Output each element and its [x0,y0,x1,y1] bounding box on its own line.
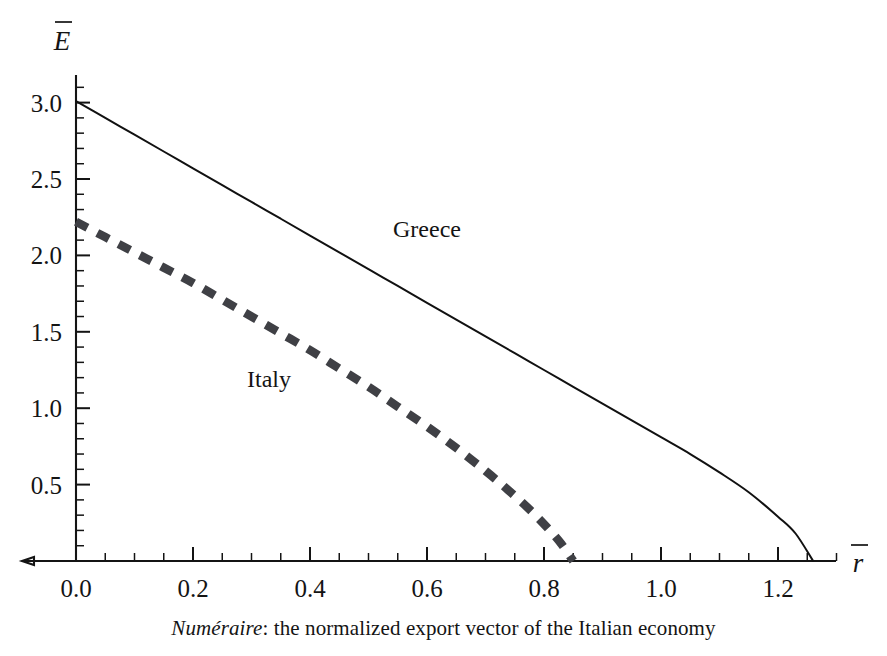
caption-rest-text: : the normalized export vector of the It… [262,616,715,640]
chart-canvas: 0.51.01.52.02.53.0 0.00.20.40.60.81.01.2… [0,0,887,656]
x-tick-label: 0.0 [60,575,91,602]
curve-greece [76,101,813,561]
x-tick-label: 1.2 [762,575,793,602]
x-axis-title-text: r [853,548,864,578]
x-tick-label: 0.2 [177,575,208,602]
data-curves [76,101,813,561]
y-tick-label: 0.5 [31,472,62,499]
y-axis-title: E [53,22,72,56]
x-tick-label: 0.6 [411,575,442,602]
y-axis-tick-labels: 0.51.01.52.02.53.0 [31,90,62,499]
series-label-greece: Greece [393,216,461,242]
x-axis-tick-labels: 0.00.20.40.60.81.01.2 [60,575,793,602]
y-tick-label: 3.0 [31,90,62,117]
x-tick-label: 0.8 [528,575,559,602]
x-tick-label: 0.4 [294,575,326,602]
y-tick-label: 1.0 [31,395,62,422]
caption-numeraire-term: Numéraire [171,616,262,640]
figure-caption: Numéraire: the normalized export vector … [0,616,887,641]
x-axis-ticks [76,547,837,561]
x-tick-label: 1.0 [645,575,676,602]
y-tick-label: 2.0 [31,242,62,269]
y-tick-label: 1.5 [31,319,62,346]
series-label-italy: Italy [247,366,291,392]
curve-italy [76,222,573,561]
figure-page: 0.51.01.52.02.53.0 0.00.20.40.60.81.01.2… [0,0,887,656]
axes-group [22,75,836,565]
y-axis-title-text: E [53,26,71,56]
x-axis-title: r [851,545,868,578]
y-tick-label: 2.5 [31,166,62,193]
y-axis-ticks [76,87,90,561]
